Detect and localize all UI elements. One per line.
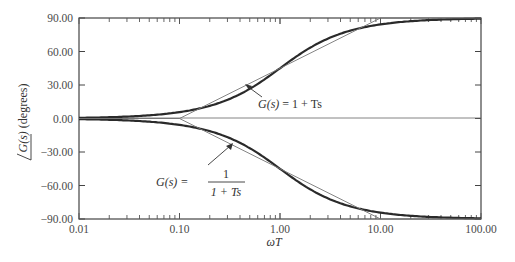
upper-annotation-lhs: G(s)	[258, 97, 279, 111]
y-axis-label-unit: (degrees)	[16, 84, 30, 132]
annotation-lead: G(s) = 1 + Ts	[245, 84, 322, 111]
svg-text:G(s) (degrees): G(s) (degrees)	[16, 84, 30, 153]
y-tick-label: −60.00	[41, 180, 74, 192]
x-tick-label: 1.00	[270, 223, 290, 235]
y-tick-label: 30.00	[47, 79, 73, 91]
lower-annotation-numerator: 1	[223, 167, 229, 181]
lower-annotation-denominator: 1 + Ts	[211, 185, 242, 199]
x-tick-label: 0.01	[69, 223, 89, 235]
x-tick-label: 0.10	[169, 223, 189, 235]
svg-text:G(s) = 1 + Ts: G(s) = 1 + Ts	[258, 97, 322, 111]
y-axis-label: G(s) (degrees)	[16, 84, 31, 160]
annotation-lag: G(s) = 1 1 + Ts	[156, 143, 245, 199]
y-tick-label: 0.00	[53, 113, 73, 125]
bode-phase-chart: 90.0060.0030.000.00−30.00−60.00−90.00 0.…	[0, 0, 515, 262]
x-tick-label: 10.00	[368, 223, 394, 235]
x-tick-label: 100.00	[465, 223, 497, 235]
upper-annotation-rhs: = 1 + Ts	[279, 97, 322, 111]
lower-annotation-lhs: G(s) =	[156, 175, 188, 189]
y-axis-label-angle: G(s)	[16, 131, 30, 152]
y-tick-label: −30.00	[41, 146, 74, 158]
x-axis-tick-labels: 0.010.101.0010.00100.00	[69, 223, 497, 235]
x-axis-label: ωT	[266, 235, 282, 249]
y-tick-label: 60.00	[47, 46, 73, 58]
series-group	[79, 18, 481, 219]
asymptote-line	[79, 119, 481, 220]
y-tick-label: 90.00	[47, 12, 73, 24]
y-axis-tick-labels: 90.0060.0030.000.00−30.00−60.00−90.00	[41, 12, 74, 225]
